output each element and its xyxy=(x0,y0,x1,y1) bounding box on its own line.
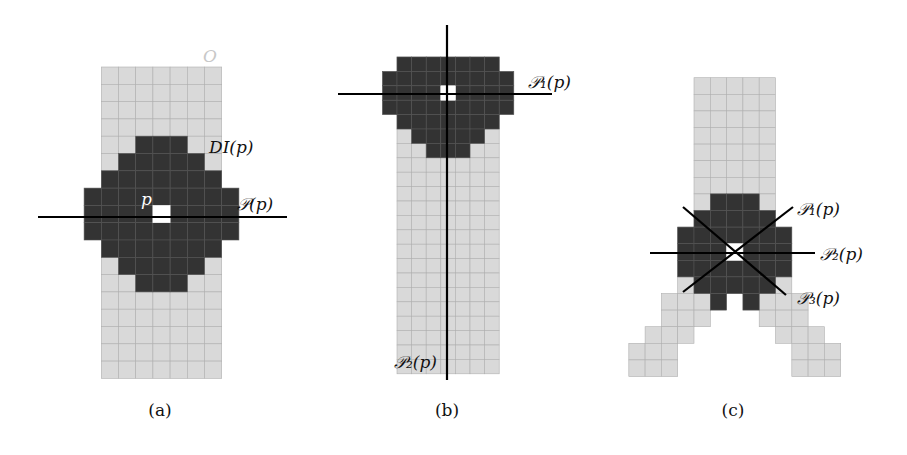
object-pixel xyxy=(470,215,485,229)
object-pixel xyxy=(170,344,187,361)
object-pixel xyxy=(470,230,485,244)
disk-pixel xyxy=(397,100,412,114)
object-pixel xyxy=(397,273,412,287)
object-pixel xyxy=(694,177,710,194)
disk-pixel xyxy=(119,205,136,222)
label-P2-p: 𝒫₂(p) xyxy=(820,244,863,264)
disk-pixel xyxy=(101,171,118,188)
disk-pixel xyxy=(187,240,204,257)
object-pixel xyxy=(153,67,170,84)
object-pixel xyxy=(397,244,412,258)
object-pixel xyxy=(743,78,759,95)
disk-pixel xyxy=(499,71,514,85)
object-pixel xyxy=(455,201,470,215)
disk-pixel xyxy=(412,129,427,143)
object-pixel xyxy=(759,128,775,145)
disk-pixel xyxy=(84,205,101,222)
object-pixel xyxy=(170,309,187,326)
disk-pixel xyxy=(759,211,775,228)
object-pixel xyxy=(485,359,500,373)
object-pixel xyxy=(485,215,500,229)
disk-pixel xyxy=(455,115,470,129)
disk-pixel xyxy=(119,154,136,171)
disk-pixel xyxy=(187,188,204,205)
object-pixel xyxy=(455,316,470,330)
object-pixel xyxy=(710,177,726,194)
disk-pixel xyxy=(743,294,759,311)
object-pixel xyxy=(455,230,470,244)
disk-pixel xyxy=(455,57,470,71)
object-pixel xyxy=(694,128,710,145)
label-p: p xyxy=(141,189,152,209)
object-pixel xyxy=(470,316,485,330)
object-pixel xyxy=(694,194,710,211)
disk-pixel xyxy=(727,211,743,228)
object-pixel xyxy=(678,327,694,344)
label-P-p: 𝒫(p) xyxy=(237,194,273,214)
object-label-O: O xyxy=(203,46,217,66)
object-pixel xyxy=(397,201,412,215)
object-pixel xyxy=(727,161,743,178)
object-pixel xyxy=(205,67,222,84)
disk-pixel xyxy=(426,129,441,143)
object-pixel xyxy=(412,273,427,287)
object-pixel xyxy=(470,201,485,215)
disk-pixel xyxy=(101,240,118,257)
object-pixel xyxy=(205,361,222,378)
object-pixel xyxy=(426,215,441,229)
object-pixel xyxy=(412,143,427,157)
object-pixel xyxy=(455,172,470,186)
object-pixel xyxy=(101,154,118,171)
object-pixel xyxy=(743,144,759,161)
object-pixel xyxy=(205,119,222,136)
object-pixel xyxy=(187,67,204,84)
panel-b: 𝒫₁(p)𝒫₂(p) xyxy=(338,25,571,380)
disk-pixel xyxy=(101,223,118,240)
label-P1-p: 𝒫₁(p) xyxy=(797,199,840,219)
object-pixel xyxy=(119,84,136,101)
disk-pixel xyxy=(426,57,441,71)
object-pixel xyxy=(629,343,645,360)
disk-pixel xyxy=(426,71,441,85)
object-pixel xyxy=(759,310,775,327)
disk-pixel xyxy=(694,277,710,294)
object-pixel xyxy=(485,316,500,330)
object-pixel xyxy=(170,102,187,119)
object-pixel xyxy=(412,201,427,215)
object-pixel xyxy=(792,327,808,344)
object-pixel xyxy=(485,129,500,143)
object-pixel xyxy=(412,230,427,244)
object-pixel xyxy=(119,309,136,326)
object-pixel xyxy=(808,327,824,344)
object-pixel xyxy=(153,344,170,361)
disk-pixel xyxy=(470,57,485,71)
object-pixel xyxy=(727,128,743,145)
disk-pixel xyxy=(205,188,222,205)
object-pixel xyxy=(412,259,427,273)
disk-pixel xyxy=(485,100,500,114)
disk-pixel xyxy=(136,136,153,153)
object-pixel xyxy=(759,294,775,311)
disk-pixel xyxy=(455,100,470,114)
disk-pixel xyxy=(397,71,412,85)
object-pixel xyxy=(485,244,500,258)
object-pixel xyxy=(743,94,759,111)
object-pixel xyxy=(426,287,441,301)
disk-pixel xyxy=(776,227,792,244)
disk-pixel xyxy=(426,115,441,129)
object-pixel xyxy=(397,215,412,229)
object-pixel xyxy=(187,136,204,153)
disk-pixel xyxy=(743,211,759,228)
disk-pixel xyxy=(136,275,153,292)
disk-pixel xyxy=(727,194,743,211)
object-pixel xyxy=(455,244,470,258)
disk-pixel xyxy=(205,223,222,240)
object-pixel xyxy=(187,275,204,292)
object-pixel xyxy=(743,111,759,128)
disk-pixel xyxy=(170,257,187,274)
object-pixel xyxy=(694,161,710,178)
object-pixel xyxy=(485,143,500,157)
disk-pixel xyxy=(743,194,759,211)
object-pixel xyxy=(470,143,485,157)
object-pixel xyxy=(426,331,441,345)
